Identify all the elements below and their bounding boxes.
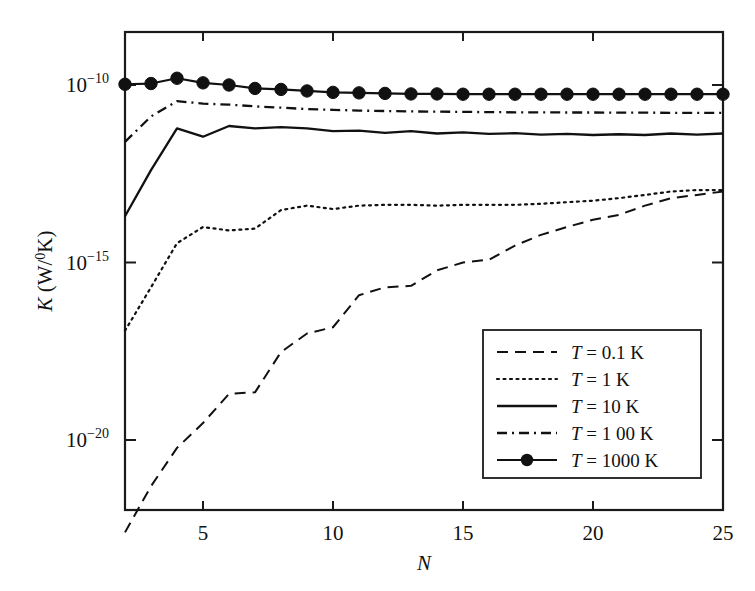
legend-label-0: T = 0.1 K — [571, 342, 644, 363]
legend-label-3: T = 1 00 K — [571, 423, 654, 444]
series-marker-4 — [431, 88, 443, 100]
series-marker-4 — [405, 88, 417, 100]
x-axis-title: N — [416, 551, 432, 575]
series-marker-4 — [353, 87, 365, 99]
series-marker-4 — [223, 79, 235, 91]
y-axis-title: K (W/0K) — [33, 230, 57, 312]
series-marker-4 — [587, 88, 599, 100]
series-marker-4 — [691, 88, 703, 100]
series-marker-4 — [457, 88, 469, 100]
legend-sample-marker-4 — [521, 454, 533, 466]
chart-svg: 510152025 10−1010−1510−20 N K (W/0K) T =… — [0, 0, 755, 591]
svg-text:K (W/0K): K (W/0K) — [33, 230, 57, 312]
series-marker-4 — [145, 77, 157, 89]
x-tick-label: 20 — [583, 521, 604, 545]
series-marker-4 — [275, 83, 287, 95]
series-marker-4 — [535, 88, 547, 100]
x-tick-label: 25 — [713, 521, 734, 545]
series-marker-4 — [717, 88, 729, 100]
series-marker-4 — [249, 82, 261, 94]
series-marker-4 — [327, 86, 339, 98]
figure-container: 510152025 10−1010−1510−20 N K (W/0K) T =… — [0, 0, 755, 591]
series-marker-4 — [119, 78, 131, 90]
x-tick-label: 5 — [198, 521, 209, 545]
series-marker-4 — [561, 88, 573, 100]
x-tick-label: 15 — [453, 521, 474, 545]
series-marker-4 — [665, 88, 677, 100]
series-marker-4 — [197, 77, 209, 89]
legend-label-2: T = 10 K — [571, 396, 640, 417]
series-marker-4 — [483, 88, 495, 100]
series-marker-4 — [171, 72, 183, 84]
x-tick-label: 10 — [323, 521, 344, 545]
series-marker-4 — [639, 88, 651, 100]
legend: T = 0.1 KT = 1 KT = 10 KT = 1 00 KT = 10… — [483, 330, 701, 478]
series-marker-4 — [509, 88, 521, 100]
legend-label-4: T = 1000 K — [571, 450, 659, 471]
series-marker-4 — [613, 88, 625, 100]
series-marker-4 — [301, 85, 313, 97]
legend-label-1: T = 1 K — [571, 369, 630, 390]
series-marker-4 — [379, 87, 391, 99]
